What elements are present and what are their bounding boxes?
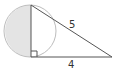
base-label: 4 — [68, 59, 74, 70]
hypotenuse-label: 5 — [69, 19, 75, 30]
hypotenuse — [31, 5, 112, 57]
geometry-diagram: 5 4 — [0, 0, 119, 81]
shaded-half-circle — [5, 5, 31, 57]
